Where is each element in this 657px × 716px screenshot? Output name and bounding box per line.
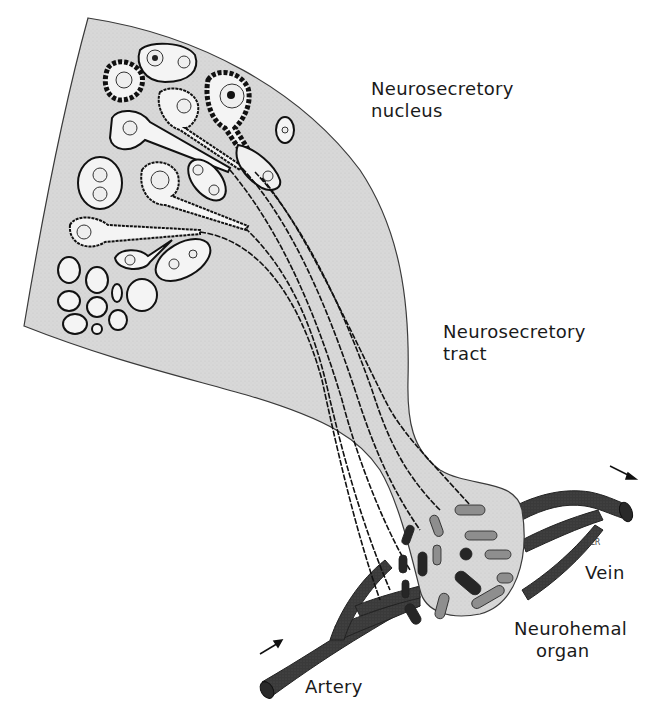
granule-light — [465, 531, 497, 540]
granule-dark — [418, 552, 427, 576]
granule-dark — [460, 548, 472, 560]
granule-light — [485, 550, 511, 559]
label-line: Neurosecretory — [443, 321, 586, 343]
label-line: Neurosecretory — [371, 78, 514, 100]
neurosecretory-diagram: Neurosecretory nucleus Neurosecretory tr… — [0, 0, 657, 716]
granule-light — [433, 545, 441, 565]
label-line: Artery — [305, 676, 363, 698]
label-neurosecretory-tract: Neurosecretory tract — [443, 321, 586, 365]
granule-dark — [399, 555, 407, 573]
label-artery: Artery — [305, 676, 363, 698]
label-neurohemal-organ: Neurohemal organ — [514, 618, 627, 662]
vein-upper — [517, 491, 625, 520]
arrow-right-icon — [260, 640, 282, 654]
cell — [86, 267, 108, 293]
label-line: nucleus — [371, 100, 514, 122]
cell — [87, 297, 107, 317]
cell — [63, 314, 87, 334]
cell — [112, 284, 122, 302]
label-line: organ — [514, 640, 627, 662]
cell — [127, 279, 157, 311]
cell — [58, 257, 80, 283]
cell — [109, 310, 127, 330]
arrow-right-icon — [610, 466, 636, 479]
cell — [92, 324, 102, 334]
label-line: Neurohemal — [514, 618, 627, 640]
granule-light — [497, 573, 513, 583]
label-neurosecretory-nucleus: Neurosecretory nucleus — [371, 78, 514, 122]
label-vein: Vein — [585, 562, 625, 584]
label-line: Vein — [585, 562, 625, 584]
label-line: tract — [443, 343, 586, 365]
granule-dark — [402, 580, 409, 598]
granule-light — [455, 505, 485, 515]
cell — [58, 291, 80, 311]
artist-signature: JLR — [588, 538, 600, 547]
